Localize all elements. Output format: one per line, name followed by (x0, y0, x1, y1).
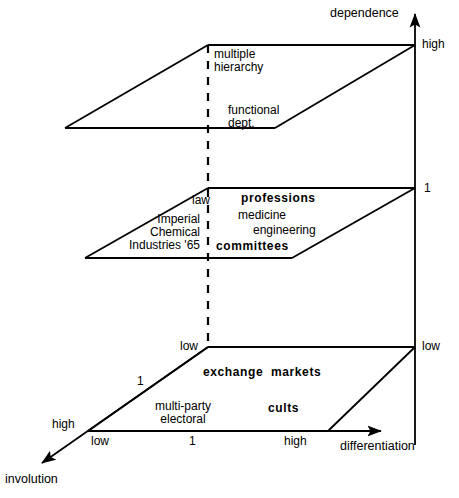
top-plane-label-dept: dept. (228, 117, 255, 130)
dependence-tick-low: low (422, 340, 440, 353)
involution-tick-low: low (180, 340, 198, 353)
dependence-tick-high: high (422, 38, 445, 51)
involution-tick-high: high (52, 418, 75, 431)
top-plane-label-hierarchy: hierarchy (214, 61, 263, 74)
middle-plane-label-committees: committees (216, 240, 289, 253)
involution-tick-one: 1 (137, 375, 144, 388)
differentiation-tick-low: low (91, 435, 109, 448)
axis-label-differentiation: differentiation (340, 440, 415, 453)
differentiation-tick-one: 1 (189, 435, 196, 448)
middle-plane-label-professions: professions (241, 192, 316, 205)
bottom-plane-label-exchange-markets: exchange markets (203, 366, 321, 379)
bottom-plane-label-cults: cults (268, 402, 299, 415)
axis-label-dependence: dependence (330, 7, 399, 20)
dependence-tick-one: 1 (424, 182, 431, 195)
middle-plane-label-medicine: medicine (238, 209, 286, 222)
diagram-canvas: dependence differentiation involution hi… (0, 0, 459, 498)
middle-plane-label-law: law (192, 194, 210, 207)
middle-plane-label-industries: Industries '65 (110, 239, 200, 252)
differentiation-tick-high: high (284, 435, 307, 448)
middle-plane-label-engineering: engineering (253, 224, 316, 237)
bottom-plane-label-electoral: electoral (138, 413, 228, 426)
axis-label-involution: involution (5, 473, 58, 486)
